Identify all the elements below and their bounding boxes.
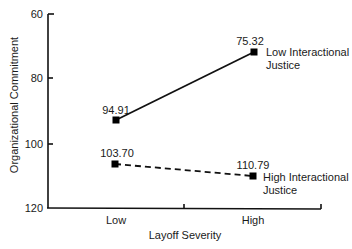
series-low-interactional-justice: 94.91 75.32 Low Interactional Justice: [102, 35, 349, 124]
y-axis-title: Organizational Commitment: [8, 37, 20, 173]
series-line-solid: [116, 52, 254, 120]
data-value-label: 110.79: [237, 159, 270, 171]
interaction-line-chart: 60 80 100 120 Organizational Commitment …: [0, 0, 352, 249]
data-point-marker: [112, 161, 119, 168]
series-high-interactional-justice: 103.70 110.79 High Interactional Justice: [100, 147, 348, 196]
series-legend-label: Low Interactional: [266, 46, 349, 58]
data-value-label: 103.70: [100, 147, 134, 159]
data-point-marker: [251, 49, 258, 56]
data-value-label: 75.32: [236, 35, 264, 47]
y-tick-label: 60: [31, 8, 43, 20]
data-value-label: 94.91: [102, 104, 130, 116]
series-line-dashed: [115, 164, 253, 176]
y-axis: 60 80 100 120 Organizational Commitment: [8, 8, 54, 214]
series-legend-label: Justice: [263, 184, 297, 196]
x-axis-title: Layoff Severity: [149, 229, 222, 241]
series-legend-label: High Interactional: [263, 171, 349, 183]
y-tick-label: 100: [25, 138, 43, 150]
x-tick-label-high: High: [242, 214, 265, 226]
series-legend-label: Justice: [266, 59, 300, 71]
x-tick-label-low: Low: [106, 214, 126, 226]
chart-canvas: 60 80 100 120 Organizational Commitment …: [0, 0, 352, 249]
y-tick-label: 80: [31, 72, 43, 84]
data-point-marker: [113, 117, 120, 124]
y-tick-label: 120: [25, 202, 43, 214]
data-point-marker: [250, 173, 257, 180]
x-axis: Low High Layoff Severity: [47, 204, 321, 241]
